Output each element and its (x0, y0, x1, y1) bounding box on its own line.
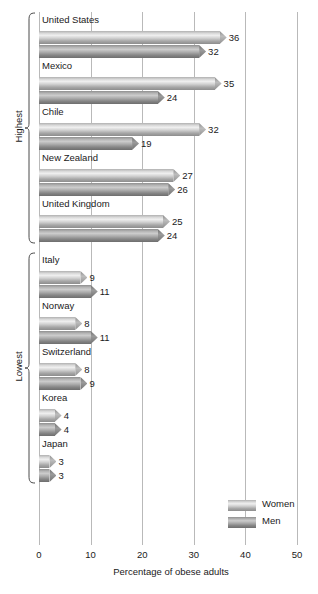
country-label: United Kingdom (42, 198, 110, 209)
bar-women[interactable] (39, 123, 204, 136)
bar-body (39, 123, 199, 136)
bar-value-label: 11 (100, 286, 110, 297)
country-label: Mexico (42, 60, 72, 71)
bar-value-label: 24 (167, 92, 178, 103)
bar-value-label: 35 (224, 78, 235, 89)
bar-body (39, 423, 55, 436)
bar-body (39, 455, 49, 468)
gridline-50 (297, 12, 298, 545)
bar-men[interactable] (39, 183, 173, 196)
bar-body (39, 169, 173, 182)
gridline-30 (194, 12, 195, 545)
bar-men[interactable] (39, 137, 137, 150)
legend-label-women: Women (262, 498, 295, 509)
legend-swatch-men-icon (228, 517, 256, 528)
bar-women[interactable] (39, 77, 220, 90)
bar-body (39, 409, 55, 422)
bar-women[interactable] (39, 409, 60, 422)
country-label: Korea (42, 392, 67, 403)
bar-body (39, 45, 199, 58)
bar-body (39, 331, 91, 344)
legend-swatch-women-icon (228, 500, 256, 511)
group-label-highest: Highest (13, 97, 24, 157)
bar-body (39, 363, 75, 376)
bar-body (39, 137, 132, 150)
group-brace-lowest (25, 252, 36, 484)
bar-value-label: 19 (141, 138, 152, 149)
bar-women[interactable] (39, 363, 80, 376)
bar-value-label: 8 (84, 318, 89, 329)
bar-value-label: 26 (177, 184, 188, 195)
bar-value-label: 9 (89, 272, 94, 283)
country-label: Norway (42, 300, 74, 311)
x-tick-label-30: 30 (179, 549, 209, 560)
bar-body (39, 377, 80, 390)
country-label: United States (42, 14, 99, 25)
bar-women[interactable] (39, 31, 225, 44)
x-axis-title: Percentage of obese adults (0, 566, 318, 577)
bar-men[interactable] (39, 91, 163, 104)
bar-value-label: 32 (208, 46, 219, 57)
bar-women[interactable] (39, 215, 168, 228)
bar-value-label: 11 (100, 332, 110, 343)
bar-body (39, 285, 91, 298)
obesity-bar-chart: United States3632Mexico3524Chile3219New … (0, 0, 318, 594)
bar-men[interactable] (39, 469, 54, 482)
bar-women[interactable] (39, 455, 54, 468)
bar-value-label: 24 (167, 230, 178, 241)
group-label-lowest: Lowest (13, 337, 24, 397)
bar-body (39, 77, 215, 90)
bar-body (39, 183, 168, 196)
country-label: Chile (42, 106, 64, 117)
x-tick-label-40: 40 (230, 549, 260, 560)
bar-men[interactable] (39, 285, 96, 298)
country-label: Italy (42, 254, 59, 265)
bar-men[interactable] (39, 229, 163, 242)
bar-men[interactable] (39, 45, 204, 58)
x-tick-label-20: 20 (127, 549, 157, 560)
bar-value-label: 4 (64, 410, 69, 421)
x-tick-label-10: 10 (76, 549, 106, 560)
bar-value-label: 3 (58, 456, 63, 467)
x-tick-label-50: 50 (282, 549, 312, 560)
legend-label-men: Men (262, 515, 280, 526)
bar-body (39, 271, 80, 284)
bar-body (39, 229, 158, 242)
country-label: New Zealand (42, 152, 98, 163)
bar-value-label: 8 (84, 364, 89, 375)
bar-women[interactable] (39, 317, 80, 330)
bar-body (39, 469, 49, 482)
bar-women[interactable] (39, 169, 178, 182)
country-label: Japan (42, 438, 68, 449)
bar-value-label: 3 (58, 470, 63, 481)
bar-value-label: 36 (229, 32, 240, 43)
country-label: Switzerland (42, 346, 91, 357)
bar-men[interactable] (39, 331, 96, 344)
bar-value-label: 27 (182, 170, 193, 181)
bar-value-label: 9 (89, 378, 94, 389)
bar-value-label: 32 (208, 124, 219, 135)
bar-body (39, 215, 163, 228)
bar-value-label: 25 (172, 216, 183, 227)
bar-value-label: 4 (64, 424, 69, 435)
bar-body (39, 317, 75, 330)
bar-men[interactable] (39, 377, 85, 390)
gridline-40 (245, 12, 246, 545)
x-tick-label-0: 0 (24, 549, 54, 560)
group-brace-highest (25, 12, 36, 244)
bar-men[interactable] (39, 423, 60, 436)
bar-body (39, 31, 220, 44)
bar-women[interactable] (39, 271, 85, 284)
bar-body (39, 91, 158, 104)
